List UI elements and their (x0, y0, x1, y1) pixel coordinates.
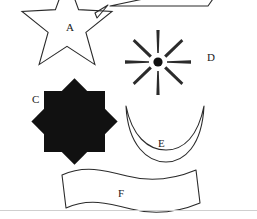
shape-eight-pointed-star (31, 78, 117, 164)
starburst-ray-s (156, 71, 159, 95)
crescent-outline (126, 106, 204, 162)
starburst-ray-sw (133, 66, 152, 85)
shape-label-c: C (32, 94, 39, 105)
trapezoid-outline (110, 0, 222, 6)
bottom-separator-rule (0, 210, 257, 211)
starburst-ray-nw (133, 39, 152, 58)
starburst-center-dot (153, 57, 162, 66)
starburst-ray-se (164, 66, 183, 85)
shape-label-f: F (118, 188, 124, 199)
shape-layer (0, 0, 257, 219)
shape-crescent-bowl (126, 106, 204, 162)
shape-label-d: D (207, 52, 215, 63)
shape-trapezoid-partial (95, 0, 222, 18)
shape-eight-ray-starburst (125, 30, 191, 95)
banner-outline (62, 169, 200, 212)
figure-canvas: A D C E F (0, 0, 257, 219)
shape-wavy-banner (62, 169, 200, 212)
starburst-ray-ne (164, 39, 183, 58)
starburst-ray-w (125, 60, 149, 63)
shape-label-e: E (158, 138, 165, 149)
shape-label-a: A (66, 22, 74, 33)
starburst-ray-n (156, 30, 159, 53)
starburst-ray-e (167, 60, 191, 63)
